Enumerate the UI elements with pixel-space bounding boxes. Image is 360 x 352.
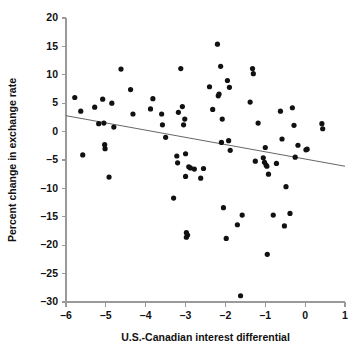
data-point <box>150 96 155 101</box>
plot-canvas: 20151050–5–10–15–20–25–30 –6–5–4–3–2–101… <box>0 0 360 352</box>
data-point <box>180 104 185 109</box>
data-point <box>148 106 153 111</box>
y-tick-label: 15 <box>46 40 58 52</box>
data-point <box>118 67 123 72</box>
data-point <box>251 71 256 76</box>
data-point <box>72 95 77 100</box>
data-point <box>282 223 287 228</box>
y-tick-label: –30 <box>40 295 58 307</box>
data-point <box>106 174 111 179</box>
x-tick-label: –2 <box>220 309 232 321</box>
y-axis-title: Percent change in exchange rate <box>6 78 18 242</box>
data-point <box>256 120 261 125</box>
data-point <box>109 101 114 106</box>
y-tick-label: –15 <box>40 210 58 222</box>
data-point <box>178 66 183 71</box>
y-tick-label: –25 <box>40 267 58 279</box>
data-point <box>225 78 230 83</box>
data-point <box>100 97 105 102</box>
y-tick-label: 20 <box>46 11 58 23</box>
data-point <box>226 138 231 143</box>
data-point <box>171 195 176 200</box>
data-point <box>305 147 310 152</box>
x-tick-label: –6 <box>60 309 72 321</box>
x-tick-label: –4 <box>140 309 152 321</box>
y-tick-label: 5 <box>52 96 58 108</box>
y-tick-label: 10 <box>46 68 58 80</box>
data-point <box>274 161 279 166</box>
data-point <box>183 174 188 179</box>
data-point <box>159 111 164 116</box>
data-point <box>283 184 288 189</box>
data-point <box>96 121 101 126</box>
data-point <box>160 122 165 127</box>
data-point <box>218 64 223 69</box>
data-point <box>227 85 232 90</box>
data-point <box>201 166 206 171</box>
data-point <box>278 109 283 114</box>
data-point <box>215 42 220 47</box>
data-point <box>101 120 106 125</box>
data-point <box>265 252 270 257</box>
scatter-plot-figure: 20151050–5–10–15–20–25–30 –6–5–4–3–2–101… <box>0 0 360 352</box>
data-point <box>240 212 245 217</box>
data-point <box>219 140 224 145</box>
data-point <box>261 155 266 160</box>
data-point <box>238 293 243 298</box>
regression-line <box>66 116 345 167</box>
y-axis-ticks: 20151050–5–10–15–20–25–30 <box>40 11 66 307</box>
data-point <box>174 153 179 158</box>
data-point <box>182 117 187 122</box>
data-point <box>293 155 298 160</box>
data-point <box>224 236 229 241</box>
data-point <box>250 66 255 71</box>
data-point <box>263 145 268 150</box>
data-point <box>287 211 292 216</box>
data-point <box>320 126 325 131</box>
x-tick-label: –5 <box>100 309 112 321</box>
data-point <box>295 143 300 148</box>
data-point <box>128 87 133 92</box>
x-tick-label: –3 <box>180 309 192 321</box>
y-tick-label: 0 <box>52 125 58 137</box>
data-point <box>175 160 180 165</box>
data-point <box>279 136 284 141</box>
data-point <box>221 205 226 210</box>
data-point <box>185 232 190 237</box>
data-point <box>220 117 225 122</box>
data-point <box>92 105 97 110</box>
data-point <box>181 122 186 127</box>
x-tick-label: –1 <box>259 309 271 321</box>
data-point <box>235 222 240 227</box>
x-axis-title: U.S.-Canadian interest differential <box>121 331 290 343</box>
y-tick-label: –5 <box>46 153 58 165</box>
data-point <box>264 164 269 169</box>
data-points-group <box>72 42 325 299</box>
x-tick-label: 0 <box>302 309 308 321</box>
data-point <box>228 148 233 153</box>
data-point <box>271 212 276 217</box>
data-point <box>176 110 181 115</box>
data-point <box>80 152 85 157</box>
x-tick-label: 1 <box>342 309 348 321</box>
data-point <box>248 99 253 104</box>
x-axis-ticks: –6–5–4–3–2–101 <box>60 302 348 321</box>
data-point <box>130 111 135 116</box>
data-point <box>78 109 83 114</box>
data-point <box>111 124 116 129</box>
data-point <box>290 105 295 110</box>
data-point <box>266 172 271 177</box>
data-point <box>183 151 188 156</box>
data-point <box>198 176 203 181</box>
data-point <box>253 159 258 164</box>
data-point <box>163 135 168 140</box>
y-tick-label: –20 <box>40 238 58 250</box>
data-point <box>207 84 212 89</box>
data-point <box>102 146 107 151</box>
data-point <box>192 166 197 171</box>
data-point <box>319 121 324 126</box>
y-tick-label: –10 <box>40 182 58 194</box>
data-point <box>216 92 221 97</box>
data-point <box>210 107 215 112</box>
data-point <box>291 123 296 128</box>
